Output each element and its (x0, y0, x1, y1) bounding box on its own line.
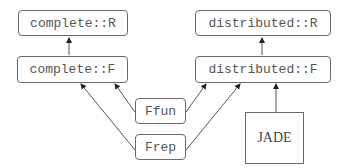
edge-Ffun-distributedF (186, 84, 206, 112)
node-distributed-r: distributed::R (195, 10, 331, 36)
node-label: distributed::F (208, 62, 317, 77)
node-ffun: Ffun (135, 98, 186, 124)
node-label: JADE (257, 130, 291, 146)
node-complete-f: complete::F (17, 56, 128, 83)
edge-Ffun-completeF (115, 84, 135, 112)
node-frep: Frep (135, 134, 186, 160)
node-label: complete::R (30, 16, 116, 31)
node-label: complete::F (30, 62, 116, 77)
node-label: Frep (145, 140, 176, 155)
node-label: distributed::R (208, 16, 317, 31)
edge-Frep-completeF (81, 84, 135, 150)
node-label: Ffun (145, 104, 176, 119)
edge-Frep-distributedF (186, 84, 240, 150)
node-jade: JADE (245, 112, 304, 164)
node-distributed-f: distributed::F (195, 56, 331, 83)
node-complete-r: complete::R (18, 10, 128, 36)
